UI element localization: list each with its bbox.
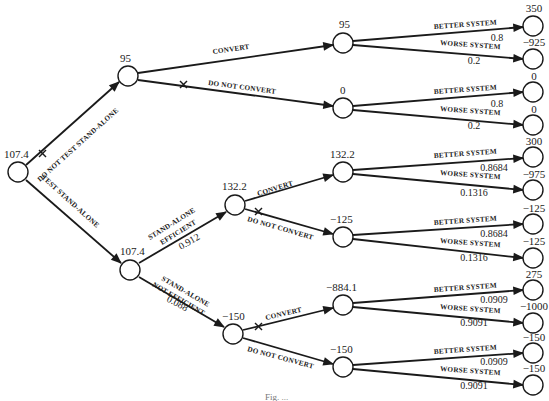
terminal-node	[523, 343, 543, 363]
terminal-node	[523, 82, 543, 102]
probability: 0.8	[491, 98, 504, 109]
probability: 0.0909	[480, 294, 508, 305]
terminal-value: 0	[531, 103, 537, 115]
decision-node-efficient	[225, 195, 245, 215]
terminal-value: −925	[523, 36, 546, 48]
root-decision-node	[8, 162, 28, 182]
terminal-value: 275	[526, 268, 543, 280]
branch-lines	[26, 27, 523, 385]
outcome-label-better: BETTER SYSTEM	[434, 344, 498, 356]
probability: 0.2	[468, 120, 481, 131]
branch-label-convert: CONVERT	[256, 179, 294, 197]
probability: 0.2	[468, 55, 481, 66]
probability: 0.1316	[460, 187, 488, 198]
terminal-node	[523, 375, 543, 395]
chance-node-c4	[333, 227, 353, 247]
probability: 0.9091	[460, 317, 488, 328]
terminal-value: −1000	[520, 300, 549, 312]
node-value: 132.2	[222, 180, 247, 192]
node-value: 132.2	[330, 148, 355, 160]
terminal-node	[523, 49, 543, 69]
terminal-node	[523, 180, 543, 200]
node-value: 95	[339, 18, 351, 30]
chance-node-c3	[333, 162, 353, 182]
chance-node-c1	[333, 33, 353, 53]
chance-node-c2	[333, 98, 353, 118]
terminal-node	[523, 147, 543, 167]
nodes	[8, 16, 543, 395]
node-value: −150	[330, 343, 353, 355]
chance-node-c5	[333, 295, 353, 315]
branch-labels: DO NOT TEST STAND-ALONE TEST STAND-ALONE…	[36, 43, 315, 371]
node-value: −125	[330, 213, 353, 225]
terminal-node	[523, 16, 543, 36]
decision-tree-diagram: 107.4 95 107.4 132.2 −150 95 0 132.2 −12…	[0, 0, 549, 401]
terminal-value: 0	[531, 70, 537, 82]
terminal-value: −125	[523, 235, 546, 247]
node-value: 95	[120, 52, 132, 64]
terminal-value: −150	[523, 362, 546, 374]
branch-label-test: TEST STAND-ALONE	[40, 174, 101, 230]
terminal-value: −125	[523, 202, 546, 214]
node-value: −150	[222, 310, 245, 322]
terminal-node	[523, 248, 543, 268]
probability: 0.9091	[460, 380, 488, 391]
branch-label-convert: CONVERT	[212, 43, 250, 56]
node-value: 107.4	[120, 245, 145, 257]
outcome-label-better: BETTER SYSTEM	[434, 148, 498, 160]
terminal-value: −150	[523, 331, 546, 343]
chance-node-test	[120, 260, 140, 280]
probability: 0.8	[491, 32, 504, 43]
terminal-node	[523, 115, 543, 135]
outcome-label-better: BETTER SYSTEM	[434, 215, 498, 227]
node-value: 0	[340, 84, 346, 96]
probability: 0.8684	[480, 162, 508, 173]
probability: 0.8684	[480, 228, 508, 239]
terminal-node	[523, 313, 543, 333]
chance-node-c6	[333, 357, 353, 377]
node-value: −884.1	[326, 281, 357, 293]
terminal-value: 350	[526, 2, 543, 14]
decision-node-not-efficient	[223, 324, 243, 344]
terminal-node	[523, 214, 543, 234]
probability: 0.1316	[460, 252, 488, 263]
terminal-value: −975	[523, 168, 546, 180]
node-value: 107.4	[4, 148, 29, 160]
figure-caption: Fig. ...	[265, 392, 288, 401]
terminal-node	[523, 280, 543, 300]
terminal-value: 300	[526, 135, 543, 147]
decision-node-no-test	[118, 66, 138, 86]
probability: 0.0909	[480, 356, 508, 367]
